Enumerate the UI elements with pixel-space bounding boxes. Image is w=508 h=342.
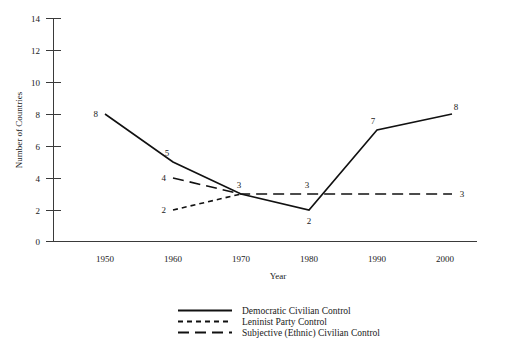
chart-canvas: 14 12 10 8 6 4 2 0 Number of Countries 1… [0,0,508,342]
point-label-longdash-2000: 3 [460,189,465,199]
x-tick-label-1950: 1950 [96,254,115,264]
legend-entry-subjective-ethnic-civilian-control[interactable]: Subjective (Ethnic) Civilian Control [178,328,380,339]
point-label-finedash-1960: 2 [162,205,167,215]
y-tick-label-6: 6 [36,142,41,152]
series-line-leninist-party-control [173,194,241,210]
y-axis [46,18,61,242]
x-tick-label-1970: 1970 [232,254,251,264]
y-tick-label-0: 0 [36,237,41,247]
legend-entry-leninist-party-control[interactable]: Leninist Party Control [178,317,327,327]
point-label-solid-1970: 3 [237,180,242,190]
x-tick-label-1980: 1980 [300,254,319,264]
y-axis-tick-labels: 14 12 10 8 6 4 2 0 [31,14,41,247]
series-line-subjective-ethnic-civilian-control [173,178,452,194]
x-tick-label-2000: 2000 [436,254,455,264]
x-axis-tick-labels: 1950 1960 1970 1980 1990 2000 [96,254,455,264]
point-label-solid-1980: 2 [307,216,312,226]
line-chart-figure: 14 12 10 8 6 4 2 0 Number of Countries 1… [0,0,508,342]
y-axis-title: Number of Countries [14,91,24,168]
series-line-democratic-civilian-control [105,114,452,210]
x-tick-label-1960: 1960 [164,254,183,264]
y-tick-label-14: 14 [31,14,41,24]
data-point-labels: 8 5 3 2 7 8 4 3 3 2 [94,102,465,226]
y-tick-label-12: 12 [31,46,40,56]
y-tick-label-8: 8 [36,110,41,120]
point-label-solid-1990: 7 [371,116,376,126]
y-tick-label-2: 2 [36,206,41,216]
legend-label-leninist-party-control: Leninist Party Control [242,317,327,327]
x-axis-title: Year [270,271,287,281]
point-label-longdash-1960: 4 [162,173,167,183]
y-tick-label-4: 4 [36,174,41,184]
y-tick-label-10: 10 [31,78,41,88]
point-label-solid-1950: 8 [94,109,99,119]
legend-entry-democratic-civilian-control[interactable]: Democratic Civilian Control [178,306,351,316]
chart-legend: Democratic Civilian Control Leninist Par… [178,306,380,339]
point-label-solid-2000: 8 [454,102,459,112]
x-tick-label-1990: 1990 [368,254,387,264]
legend-label-subjective-ethnic-civilian-control: Subjective (Ethnic) Civilian Control [242,328,380,339]
legend-label-democratic-civilian-control: Democratic Civilian Control [242,306,351,316]
point-label-longdash-1980: 3 [305,180,310,190]
point-label-solid-1960: 5 [165,148,170,158]
